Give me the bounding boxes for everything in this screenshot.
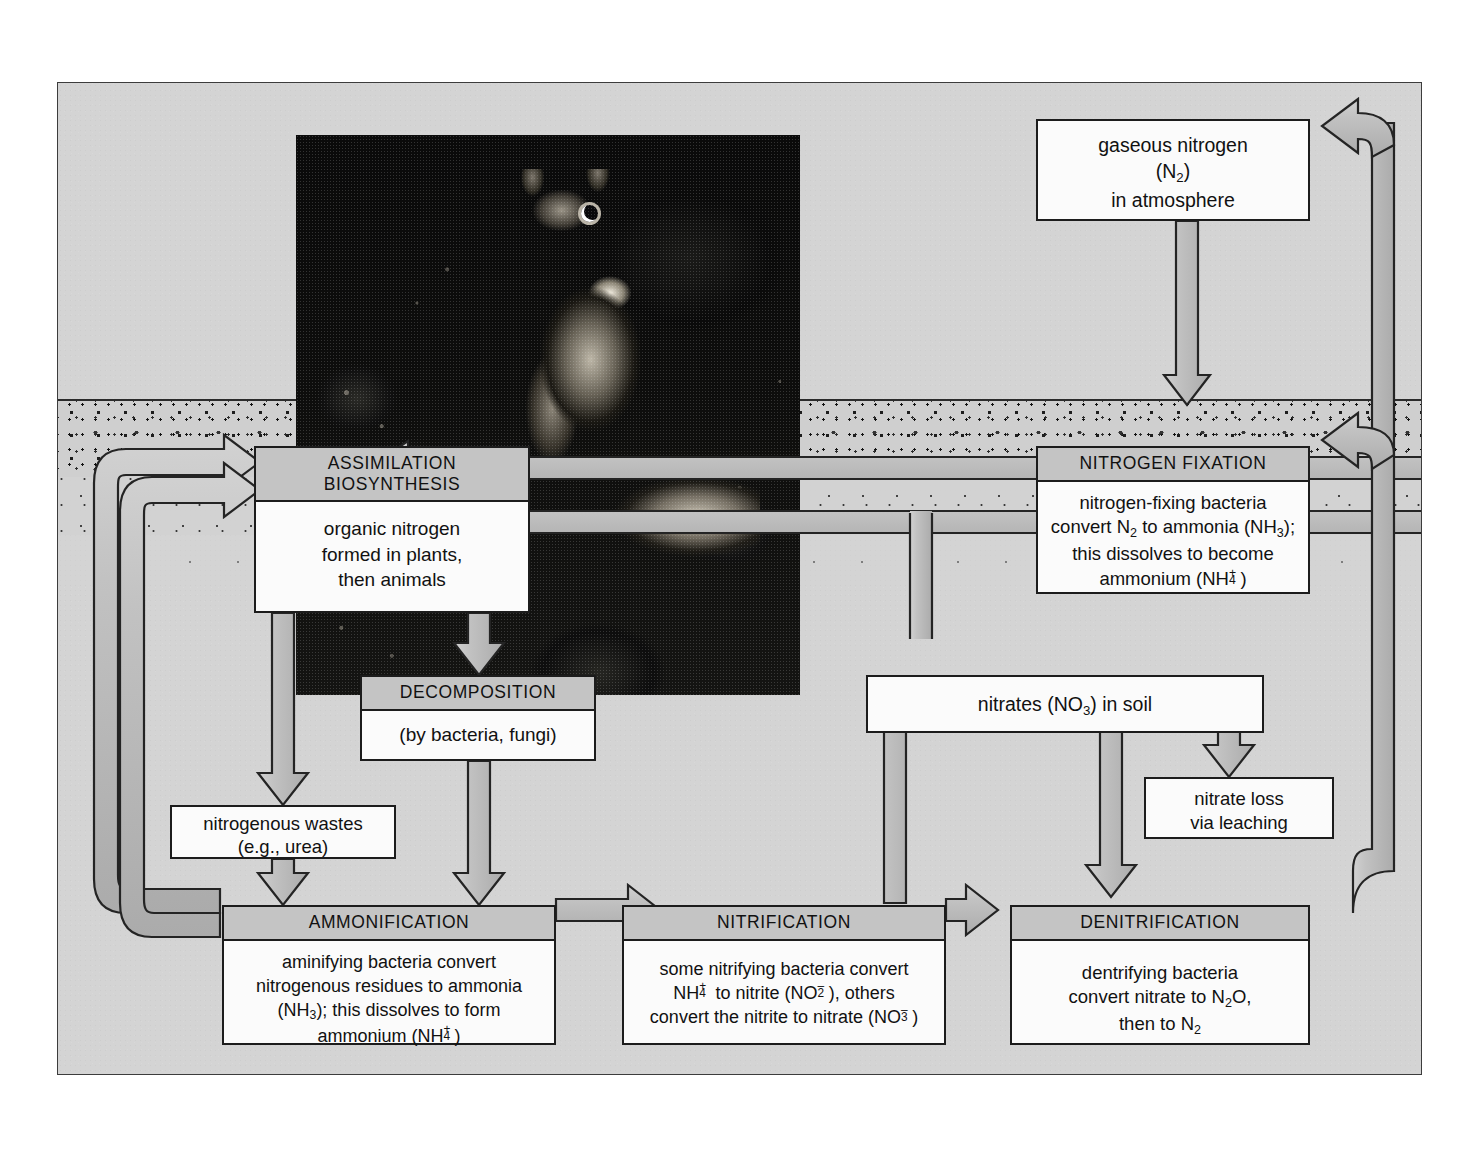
nit-line2-a: NH bbox=[673, 983, 699, 1003]
nitrate-loss-line2: via leaching bbox=[1190, 812, 1288, 833]
box-nitrification: NITRIFICATION some nitrifying bacteria c… bbox=[622, 905, 946, 1045]
amm-line4-stack: +4 bbox=[443, 1024, 454, 1042]
wastes-line1: nitrogenous wastes bbox=[203, 813, 362, 834]
arrow-assimilation-to-wastes bbox=[258, 613, 308, 805]
box-nitrogen-fixation-body: nitrogen-fixing bacteria convert N2 to a… bbox=[1038, 482, 1308, 601]
box-ammonification-body: aminifying bacteria convert nitrogenous … bbox=[224, 941, 554, 1057]
nit-line2-stack1: +4 bbox=[699, 981, 710, 999]
nitrates-line1-a: nitrates (NO bbox=[978, 693, 1083, 715]
box-nitrate-loss: nitrate loss via leaching bbox=[1144, 777, 1334, 839]
assim-header-line1: ASSIMILATION bbox=[328, 453, 456, 473]
box-nitrates-in-soil: nitrates (NO3) in soil bbox=[866, 675, 1264, 733]
gaseous-nitrogen-line2-pre: (N bbox=[1156, 160, 1177, 182]
den-line2-sub: 2 bbox=[1225, 996, 1232, 1010]
nit-line1: some nitrifying bacteria convert bbox=[659, 959, 908, 979]
den-line1: dentrifying bacteria bbox=[1082, 962, 1238, 983]
gaseous-nitrogen-line3: in atmosphere bbox=[1111, 189, 1235, 211]
nitrate-loss-line1: nitrate loss bbox=[1194, 788, 1283, 809]
box-nitrification-header: NITRIFICATION bbox=[624, 907, 944, 941]
nit-line2-sub2: 2 bbox=[818, 986, 825, 1002]
box-assimilation-biosynthesis: ASSIMILATION BIOSYNTHESIS organic nitrog… bbox=[254, 446, 530, 613]
nf-line3: this dissolves to become bbox=[1072, 543, 1274, 564]
box-nitrogenous-wastes-body: nitrogenous wastes (e.g., urea) bbox=[172, 807, 394, 864]
box-nitrogen-fixation-header: NITROGEN FIXATION bbox=[1038, 448, 1308, 482]
box-decomposition-body: (by bacteria, fungi) bbox=[362, 711, 594, 756]
assim-line1: organic nitrogen bbox=[324, 518, 460, 539]
wastes-line2: (e.g., urea) bbox=[238, 836, 329, 857]
arrow-decomposition-to-ammonification bbox=[454, 761, 504, 905]
gaseous-nitrogen-line2-sub: 2 bbox=[1176, 170, 1183, 185]
amm-line1: aminifying bacteria convert bbox=[282, 952, 496, 972]
arrow-fixation-branch-to-nitrates bbox=[910, 511, 932, 639]
diagram-panel: gaseous nitrogen (N2) in atmosphere NITR… bbox=[57, 82, 1422, 1075]
amm-line4-a: ammonium (NH bbox=[317, 1026, 443, 1046]
nit-line3-a: convert the nitrite to nitrate (NO bbox=[650, 1007, 901, 1027]
nit-line3-stack: –3 bbox=[901, 1005, 912, 1023]
amm-line3-b: ); this dissolves to form bbox=[316, 1000, 500, 1020]
box-denitrification-header: DENITRIFICATION bbox=[1012, 907, 1308, 941]
nf-line2-sub1: 2 bbox=[1130, 526, 1137, 540]
arrow-nitrification-to-denitrification bbox=[946, 885, 998, 935]
amm-line3-a: (NH bbox=[278, 1000, 310, 1020]
assim-header-line2: BIOSYNTHESIS bbox=[324, 474, 461, 494]
gaseous-nitrogen-line2-post: ) bbox=[1184, 160, 1191, 182]
box-decomposition-header: DECOMPOSITION bbox=[362, 677, 594, 711]
box-denitrification-body: dentrifying bacteria convert nitrate to … bbox=[1012, 941, 1308, 1048]
nf-line4-sub: 4 bbox=[1229, 572, 1236, 588]
arrow-n2-to-fixation bbox=[1164, 221, 1210, 405]
arrow-riser-to-n2 bbox=[1322, 99, 1394, 157]
nf-line4-a: ammonium (NH bbox=[1099, 568, 1229, 589]
box-nitrogenous-wastes: nitrogenous wastes (e.g., urea) bbox=[170, 805, 396, 859]
box-ammonification-header: AMMONIFICATION bbox=[224, 907, 554, 941]
nf-line2-b: to ammonia (NH bbox=[1137, 516, 1277, 537]
gaseous-nitrogen-line1: gaseous nitrogen bbox=[1098, 134, 1248, 156]
box-decomposition: DECOMPOSITION (by bacteria, fungi) bbox=[360, 675, 596, 761]
box-nitrogen-fixation: NITROGEN FIXATION nitrogen-fixing bacter… bbox=[1036, 446, 1310, 594]
box-assimilation-body: organic nitrogen formed in plants, then … bbox=[256, 502, 528, 601]
nit-line3-sub: 3 bbox=[901, 1010, 908, 1026]
nf-line4-stack: +4 bbox=[1229, 567, 1240, 586]
box-assimilation-header: ASSIMILATION BIOSYNTHESIS bbox=[256, 448, 528, 502]
assim-line2: formed in plants, bbox=[322, 544, 462, 565]
den-line2-a: convert nitrate to N bbox=[1069, 986, 1225, 1007]
box-nitrification-body: some nitrifying bacteria convert NH+4 to… bbox=[624, 941, 944, 1038]
nit-line2-sub: 4 bbox=[699, 986, 706, 1002]
amm-line4-b: ) bbox=[455, 1026, 461, 1046]
arrow-nitrates-to-denitrification bbox=[1086, 723, 1136, 897]
den-line3-sub: 2 bbox=[1194, 1022, 1201, 1036]
nf-line1: nitrogen-fixing bacteria bbox=[1079, 492, 1266, 513]
box-gaseous-nitrogen-body: gaseous nitrogen (N2) in atmosphere bbox=[1038, 121, 1308, 223]
nitrates-line1-b: ) in soil bbox=[1090, 693, 1152, 715]
nit-line3-b: ) bbox=[912, 1007, 918, 1027]
box-nitrate-loss-body: nitrate loss via leaching bbox=[1146, 779, 1332, 842]
box-nitrates-body: nitrates (NO3) in soil bbox=[868, 677, 1262, 729]
amm-line2: nitrogenous residues to ammonia bbox=[256, 976, 522, 996]
nit-line2-stack2: –2 bbox=[818, 981, 829, 999]
den-line3-a: then to N bbox=[1119, 1013, 1194, 1034]
box-denitrification: DENITRIFICATION dentrifying bacteria con… bbox=[1010, 905, 1310, 1045]
den-line2-b: O, bbox=[1232, 986, 1252, 1007]
amm-line4-sub: 4 bbox=[443, 1029, 450, 1045]
arrow-ammonification-to-assimilation-inner bbox=[120, 463, 260, 937]
arrow-assimilation-to-decomposition bbox=[454, 613, 504, 675]
box-gaseous-nitrogen: gaseous nitrogen (N2) in atmosphere bbox=[1036, 119, 1310, 221]
nf-line2-a: convert N bbox=[1051, 516, 1130, 537]
nit-line2-c: ), others bbox=[829, 983, 895, 1003]
nf-line4-b: ) bbox=[1240, 568, 1246, 589]
nit-line2-b: to nitrite (NO bbox=[710, 983, 817, 1003]
box-ammonification: AMMONIFICATION aminifying bacteria conve… bbox=[222, 905, 556, 1045]
arrow-wastes-to-ammonification bbox=[258, 859, 308, 905]
assim-line3: then animals bbox=[338, 569, 446, 590]
nf-line2-c: ); bbox=[1284, 516, 1295, 537]
nf-line2-sub2: 3 bbox=[1277, 526, 1284, 540]
